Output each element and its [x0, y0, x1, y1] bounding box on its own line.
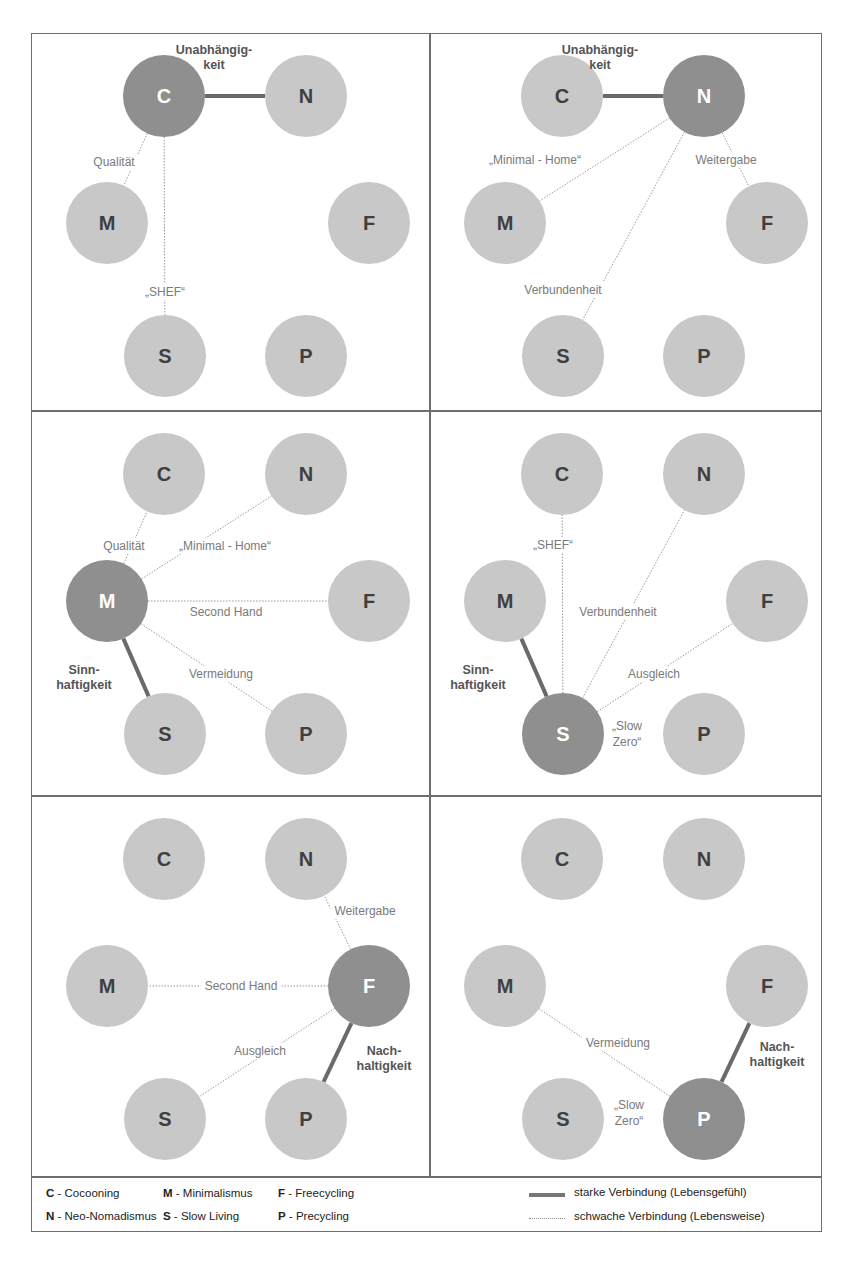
node-letter: P: [299, 345, 312, 367]
node-cocooning: C: [123, 55, 205, 137]
node-letter: S: [556, 1108, 569, 1130]
node-letter: S: [556, 345, 569, 367]
weak-connection-label: Weitergabe: [334, 904, 395, 918]
node-letter: S: [158, 345, 171, 367]
panel-cocooning: Qualität„SHEF“CNMFSPUnabhängig-keit: [32, 34, 429, 419]
node-neo-nomadismus: N: [265, 433, 347, 515]
weak-connection-swatch: [529, 1218, 565, 1219]
node-slow-living: S: [522, 693, 604, 775]
node-letter: M: [497, 975, 514, 997]
strong-connection-label: Nach-haltigkeit: [357, 1044, 413, 1073]
legend-strong-connection: starke Verbindung (Lebensgefühl): [574, 1186, 747, 1198]
node-letter: N: [299, 463, 313, 485]
node-letter: F: [761, 590, 773, 612]
network-graph: „Minimal - Home“WeitergabeVerbundenheitC…: [430, 34, 827, 419]
panel-slow-living: „SHEF“VerbundenheitAusgleichCNMFSPSinn-h…: [430, 412, 827, 797]
node-letter: N: [697, 848, 711, 870]
strong-connection-swatch: [529, 1193, 565, 1197]
legend-item-slow-living: S - Slow Living: [163, 1210, 239, 1222]
weak-connection-label: Second Hand: [190, 605, 263, 619]
weak-connection-label: Verbundenheit: [524, 283, 602, 297]
node-neo-nomadismus: N: [663, 55, 745, 137]
legend-item-minimalismus: M - Minimalismus: [163, 1187, 252, 1199]
node-letter: C: [157, 848, 171, 870]
node-freecycling: F: [726, 945, 808, 1027]
node-letter: S: [556, 723, 569, 745]
node-letter: C: [555, 85, 569, 107]
node-neo-nomadismus: N: [265, 818, 347, 900]
node-letter: M: [497, 590, 514, 612]
annotation-label: „SlowZero“: [612, 719, 642, 749]
node-letter: N: [697, 85, 711, 107]
node-cocooning: C: [123, 818, 205, 900]
node-letter: F: [363, 212, 375, 234]
node-slow-living: S: [522, 1078, 604, 1160]
node-precycling: P: [663, 315, 745, 397]
weak-connection-label: Vermeidung: [189, 667, 253, 681]
weak-connection-label: Vermeidung: [586, 1036, 650, 1050]
weak-connection-label: Qualität: [93, 155, 135, 169]
node-letter: P: [697, 1108, 710, 1130]
node-slow-living: S: [124, 693, 206, 775]
weak-connection-label: Ausgleich: [234, 1044, 286, 1058]
node-minimalismus: M: [464, 560, 546, 642]
weak-connection-label: „Minimal - Home“: [179, 539, 271, 553]
weak-connection-label: „SHEF“: [533, 538, 573, 552]
node-letter: M: [99, 590, 116, 612]
node-letter: N: [299, 848, 313, 870]
weak-connection-label: Verbundenheit: [579, 605, 657, 619]
node-cocooning: C: [521, 818, 603, 900]
node-letter: C: [157, 85, 171, 107]
node-neo-nomadismus: N: [265, 55, 347, 137]
legend-item-freecycling: F - Freecycling: [278, 1187, 354, 1199]
node-letter: M: [99, 212, 116, 234]
node-minimalismus: M: [66, 182, 148, 264]
node-letter: C: [555, 463, 569, 485]
strong-connection-label: Sinn-haftigkeit: [56, 663, 112, 692]
network-graph: Qualität„Minimal - Home“Second HandVerme…: [32, 412, 429, 797]
node-neo-nomadismus: N: [663, 433, 745, 515]
weak-connection-line: [124, 511, 147, 563]
node-precycling: P: [663, 693, 745, 775]
node-letter: F: [761, 212, 773, 234]
legend-weak-connection: schwache Verbindung (Lebensweise): [574, 1210, 765, 1222]
node-freecycling: F: [328, 945, 410, 1027]
legend-item-cocooning: C - Cocooning: [46, 1187, 120, 1199]
node-letter: S: [158, 723, 171, 745]
strong-connection-line: [521, 639, 546, 697]
node-letter: S: [158, 1108, 171, 1130]
strong-connection-line: [722, 1023, 750, 1082]
node-letter: N: [299, 85, 313, 107]
diagram-frame: Qualität„SHEF“CNMFSPUnabhängig-keit „Min…: [31, 33, 822, 1232]
weak-connection-label: Ausgleich: [628, 667, 680, 681]
panel-minimalismus: Qualität„Minimal - Home“Second HandVerme…: [32, 412, 429, 797]
legend: C - Cocooning N - Neo-Nomadismus M - Min…: [32, 1177, 821, 1233]
weak-connection-label: „SHEF“: [145, 285, 185, 299]
node-minimalismus: M: [464, 945, 546, 1027]
strong-connection-label: Nach-haltigkeit: [750, 1040, 806, 1069]
node-slow-living: S: [124, 1078, 206, 1160]
node-letter: M: [99, 975, 116, 997]
divider-vertical: [429, 34, 431, 1176]
node-freecycling: F: [328, 560, 410, 642]
node-cocooning: C: [123, 433, 205, 515]
network-graph: Qualität„SHEF“CNMFSPUnabhängig-keit: [32, 34, 429, 419]
network-graph: VermeidungCNMFSPNach-haltigkeit„SlowZero…: [430, 797, 827, 1182]
node-minimalismus: M: [464, 182, 546, 264]
strong-connection-label: Sinn-haftigkeit: [450, 663, 506, 692]
divider-horizontal: [32, 795, 821, 797]
divider-horizontal: [32, 410, 821, 412]
node-letter: P: [299, 1108, 312, 1130]
node-cocooning: C: [521, 433, 603, 515]
panel-freecycling: WeitergabeSecond HandAusgleichCNMFSPNach…: [32, 797, 429, 1182]
network-graph: „SHEF“VerbundenheitAusgleichCNMFSPSinn-h…: [430, 412, 827, 797]
legend-item-neo-nomadismus: N - Neo-Nomadismus: [46, 1210, 157, 1222]
node-letter: C: [157, 463, 171, 485]
node-freecycling: F: [726, 182, 808, 264]
node-letter: M: [497, 212, 514, 234]
node-freecycling: F: [726, 560, 808, 642]
node-letter: N: [697, 463, 711, 485]
node-slow-living: S: [522, 315, 604, 397]
node-slow-living: S: [124, 315, 206, 397]
node-freecycling: F: [328, 182, 410, 264]
